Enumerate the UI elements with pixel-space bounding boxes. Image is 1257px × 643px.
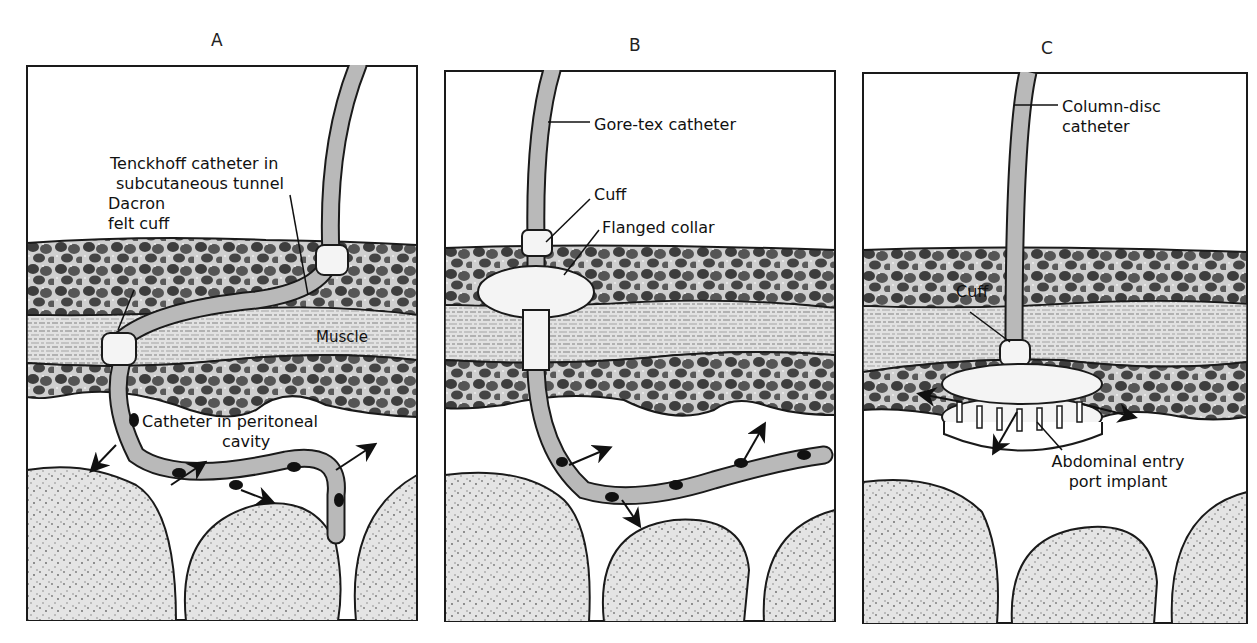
label-cuff-b: Cuff [594, 185, 626, 204]
label-tenckhoff-catheter-line1: Tenckhoff catheter in [110, 154, 278, 173]
label-dacron-cuff-line2: felt cuff [108, 214, 169, 233]
label-abdominal-entry-port-line2: port implant [1048, 472, 1188, 491]
label-dacron-cuff-line1: Dacron [108, 194, 165, 213]
panel-b: Gore-tex catheter Cuff Flanged collar [444, 70, 836, 622]
panel-letter-c: C [1041, 38, 1053, 58]
label-abdominal-entry-port-line1: Abdominal entry [1048, 452, 1188, 471]
label-peritoneal-catheter-line1: Catheter in peritoneal [142, 412, 318, 431]
label-cuff-c: Cuff [956, 282, 988, 301]
label-tenckhoff-catheter-line2: subcutaneous tunnel [116, 174, 284, 193]
label-column-disc-catheter-line2: catheter [1062, 117, 1130, 136]
label-column-disc-catheter-line1: Column-disc [1062, 97, 1161, 116]
panel-letter-a: A [211, 30, 223, 50]
panel-c-illustration [862, 72, 1248, 624]
label-muscle: Muscle [316, 328, 368, 347]
panel-c: Column-disc catheter Cuff Abdominal entr… [862, 72, 1248, 624]
panel-letter-b: B [629, 35, 641, 55]
panel-b-illustration [444, 70, 836, 622]
label-goretex-catheter: Gore-tex catheter [594, 115, 736, 134]
panel-a: Tenckhoff catheter in subcutaneous tunne… [26, 65, 418, 621]
label-flanged-collar: Flanged collar [602, 218, 715, 237]
label-peritoneal-catheter-line2: cavity [222, 432, 270, 451]
